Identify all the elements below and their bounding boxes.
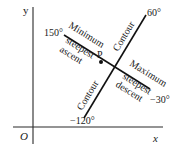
gradient-direction-diagram: y x O P Contour Contour 60° −120° Minimu… xyxy=(0,0,177,153)
y-axis-label: y xyxy=(23,4,29,16)
point-p xyxy=(99,60,103,64)
angle-60-label: 60° xyxy=(147,7,161,18)
origin-label: O xyxy=(20,130,28,142)
angle-minus30-label: −30° xyxy=(150,94,170,105)
angle-150-label: 150° xyxy=(44,27,63,38)
x-axis-label: x xyxy=(152,132,158,144)
point-p-label: P xyxy=(97,49,103,60)
angle-minus120-label: −120° xyxy=(70,115,95,126)
contour-lower-label: Contour xyxy=(74,78,101,112)
